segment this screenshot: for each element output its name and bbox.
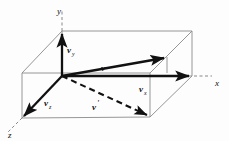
axis-label-y: y	[56, 6, 61, 16]
diagram-canvas: y x z v v y v x v z v '	[0, 0, 229, 141]
vector-vz-arrow	[24, 76, 62, 116]
box-edge-depth-bottom-right	[150, 76, 192, 117]
box-edge-depth-top-right	[150, 31, 192, 73]
axis-label-x: x	[214, 78, 219, 88]
vector-label-vy-group: v y	[67, 45, 75, 57]
vector-label-vx-subscript: x	[143, 90, 147, 96]
vector-v-prime-arrow	[62, 76, 147, 115]
axis-label-z: z	[7, 130, 12, 140]
vector-label-vx-group: v x	[139, 84, 147, 96]
vector-components-diagram: y x z v v y v x v z v '	[0, 0, 229, 141]
box-edge-front-bottom	[22, 117, 150, 118]
vector-label-vprime-group: v '	[92, 98, 100, 112]
vector-label-vz-subscript: z	[48, 104, 52, 110]
box-edge-depth-top-left	[22, 31, 62, 73]
vector-label-vprime-mark: '	[97, 98, 100, 108]
axis-dashed-extensions	[7, 11, 212, 133]
vector-label-vz-group: v z	[44, 98, 52, 110]
vector-label-vy-subscript: y	[71, 51, 75, 57]
